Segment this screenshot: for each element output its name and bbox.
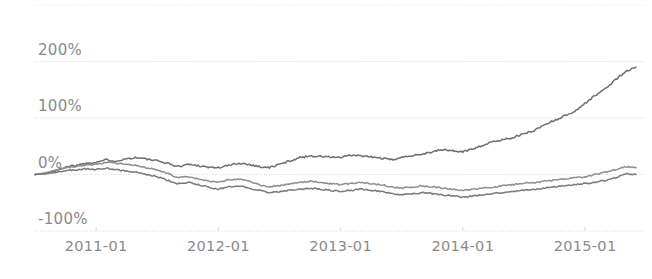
- data-series-group: [35, 67, 636, 197]
- x-axis-tick-label: 2013-01: [309, 238, 372, 254]
- gridlines: [35, 5, 646, 231]
- chart-container: 200%100%0%-100% 2011-012012-012013-01201…: [0, 0, 652, 279]
- x-axis-tick-label: 2014-01: [431, 238, 494, 254]
- y-axis-tick-label: 0%: [38, 154, 62, 172]
- x-axis-tick-label: 2012-01: [187, 238, 250, 254]
- xtick-marks: [96, 227, 585, 231]
- data-series-line: [35, 162, 636, 191]
- y-axis-tick-label: 100%: [38, 97, 82, 115]
- y-axis-tick-label: 200%: [38, 41, 82, 59]
- y-axis-tick-label: -100%: [38, 210, 88, 228]
- data-series-line: [35, 168, 636, 198]
- x-axis-tick-label: 2011-01: [65, 238, 128, 254]
- x-axis-tick-label: 2015-01: [554, 238, 617, 254]
- data-series-line: [35, 67, 636, 174]
